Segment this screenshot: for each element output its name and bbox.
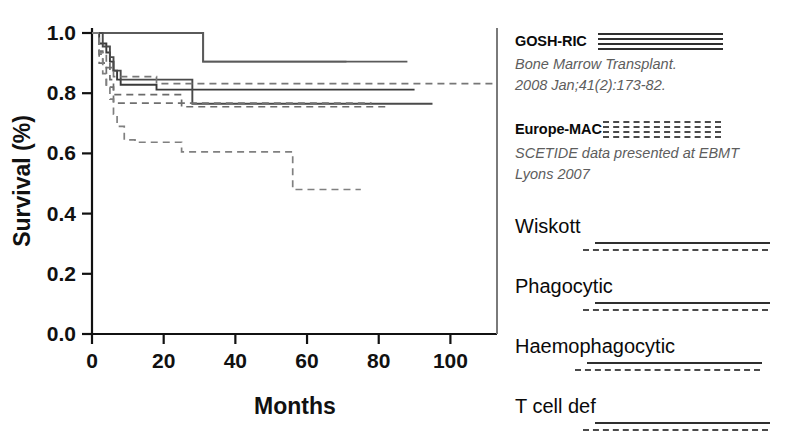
legend-item-phagocytic-label: Phagocytic (515, 275, 801, 298)
legend-group-gosh-ric-citation: Bone Marrow Transplant. 2008 Jan;41(2):1… (515, 54, 801, 95)
x-tick-label: 0 (86, 349, 98, 372)
legend-group-europe-mac-label: Europe-MAC (515, 121, 602, 137)
legend-swatch-t-cell-def (595, 420, 795, 436)
legend-line-dashed (583, 429, 768, 431)
legend-line-dashed (603, 136, 721, 138)
legend-item-t-cell-def-label: T cell def (515, 395, 801, 418)
legend-group-europe-mac-citation: SCETIDE data presented at EBMT Lyons 200… (515, 143, 801, 184)
legend-line-solid (598, 43, 723, 45)
legend-group-europe-mac-head: Europe-MAC (515, 118, 801, 140)
curve-phagocytic-europe-mac (92, 33, 389, 107)
x-tick-label: 80 (367, 349, 390, 372)
y-tick-label: 0.4 (47, 202, 77, 225)
legend-swatch-phagocytic (595, 300, 795, 316)
curve-wiskott-gosh-ric (92, 33, 346, 62)
legend-line-dashed (603, 126, 721, 128)
curve-phagocytic-gosh-ric (92, 33, 407, 62)
legend-line-solid (598, 38, 723, 40)
legend-line-solid (587, 362, 762, 364)
legend-group-gosh-ric-head: GOSH-RIC (515, 30, 801, 52)
legend-line-solid (598, 33, 723, 35)
legend-line-dashed (583, 309, 768, 311)
survival-chart: 0.00.20.40.60.81.0 020406080100 Survival… (0, 0, 515, 438)
x-tick-label: 20 (152, 349, 175, 372)
legend-line-dashed (603, 121, 721, 123)
y-tick-label: 0.2 (47, 262, 76, 285)
legend-item-t-cell-def[interactable]: T cell def (515, 395, 801, 436)
legend-group-europe-mac[interactable]: Europe-MAC SCETIDE data presented at EBM… (515, 118, 801, 184)
y-tick-label: 0.0 (47, 322, 76, 345)
legend-item-wiskott-label: Wiskott (515, 215, 801, 238)
legend-swatch-dashed-lines (603, 118, 721, 140)
x-tick-label: 60 (295, 349, 318, 372)
curve-haemophagocytic-europe-mac (92, 33, 372, 103)
legend-swatch-haemophagocytic (587, 360, 787, 376)
legend-group-gosh-ric[interactable]: GOSH-RIC Bone Marrow Transplant. 2008 Ja… (515, 30, 801, 95)
legend-line-dashed (583, 249, 768, 251)
x-tick-label: 100 (433, 349, 468, 372)
survival-curves (92, 33, 497, 190)
axes (92, 28, 497, 334)
legend-swatch-wiskott (595, 240, 795, 256)
legend-item-phagocytic[interactable]: Phagocytic (515, 275, 801, 316)
chart-legend: GOSH-RIC Bone Marrow Transplant. 2008 Ja… (515, 0, 801, 438)
figure-root: 0.00.20.40.60.81.0 020406080100 Survival… (0, 0, 801, 438)
legend-item-haemophagocytic[interactable]: Haemophagocytic (515, 335, 801, 376)
legend-line-dashed (603, 131, 721, 133)
plot-area: 0.00.20.40.60.81.0 020406080100 Survival… (0, 0, 515, 438)
legend-line-solid (595, 242, 770, 244)
curve-t-cell-def-gosh-ric (92, 33, 432, 104)
y-axis-ticks: 0.00.20.40.60.81.0 (47, 21, 92, 345)
legend-item-wiskott[interactable]: Wiskott (515, 215, 801, 256)
curve-wiskott-europe-mac (92, 33, 497, 84)
y-tick-label: 1.0 (47, 21, 76, 44)
legend-line-solid (595, 422, 770, 424)
y-tick-label: 0.8 (47, 81, 77, 104)
y-axis-title: Survival (%) (9, 115, 35, 247)
x-axis-ticks: 020406080100 (86, 334, 468, 372)
legend-group-gosh-ric-label: GOSH-RIC (515, 33, 587, 49)
x-axis-title: Months (254, 393, 336, 419)
legend-swatch-solid-lines (598, 30, 723, 52)
legend-line-dashed (575, 369, 760, 371)
legend-item-haemophagocytic-label: Haemophagocytic (515, 335, 801, 358)
y-tick-label: 0.6 (47, 141, 76, 164)
legend-line-solid (595, 302, 770, 304)
legend-line-solid (598, 48, 723, 50)
x-tick-label: 40 (224, 349, 247, 372)
curve-t-cell-def-europe-mac (92, 33, 361, 190)
